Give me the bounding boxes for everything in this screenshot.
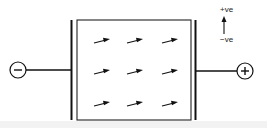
polarity-arrow-icon — [222, 16, 227, 34]
legend-top-label: +ve — [220, 6, 233, 14]
positive-terminal — [237, 63, 253, 79]
capacitor-diagram — [0, 0, 267, 128]
negative-terminal — [10, 62, 26, 78]
legend-bottom-label: −ve — [220, 36, 233, 44]
